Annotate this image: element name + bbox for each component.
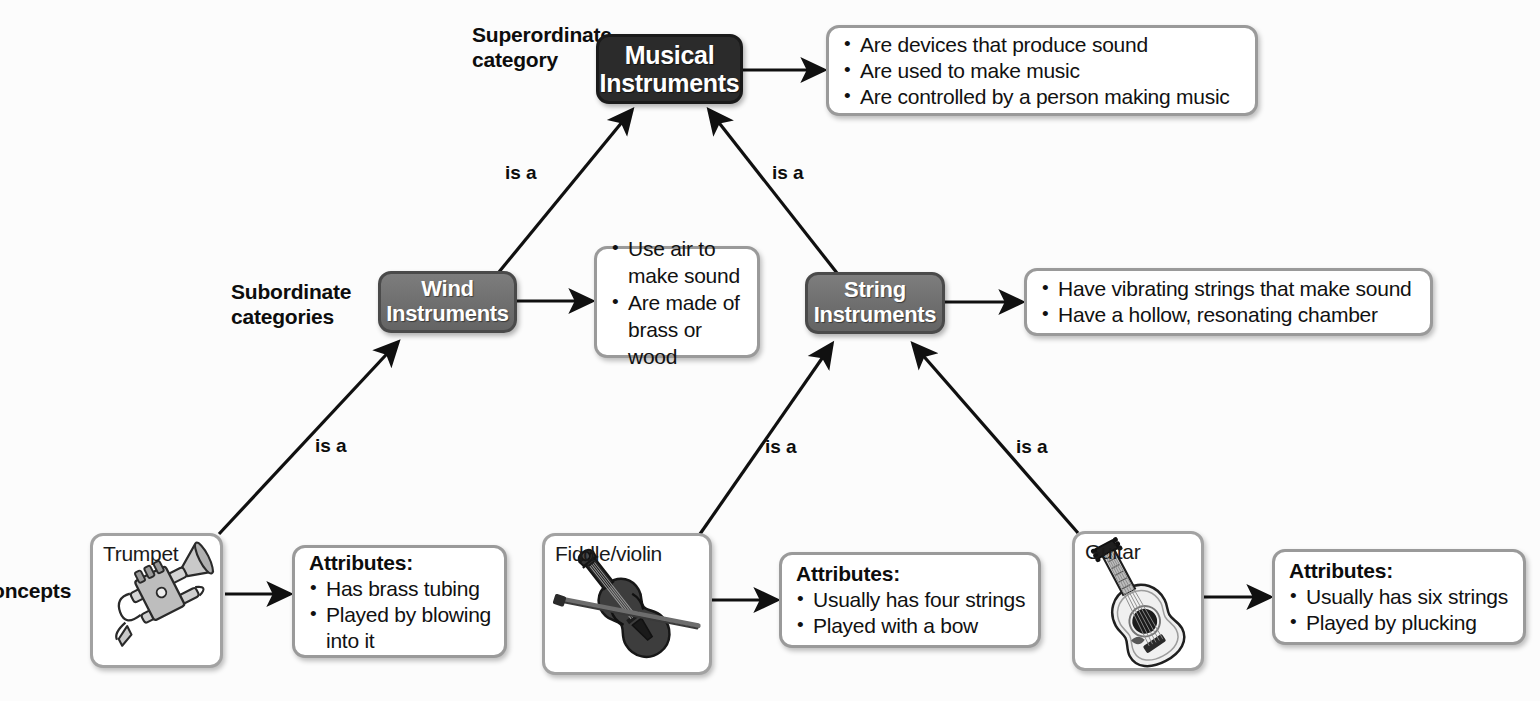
node-musical-instruments[interactable]: Musical Instruments <box>596 34 743 104</box>
factbox-guitar-list: Usually has six strings Played by plucki… <box>1289 584 1511 636</box>
concept-fiddle[interactable]: Fiddle/violin <box>542 533 712 675</box>
node-string-instruments-label: String Instruments <box>814 278 937 327</box>
factbox-trumpet-attributes: Attributes: Has brass tubing Played by b… <box>292 545 507 658</box>
factbox-item: Usually has four strings <box>796 587 1026 613</box>
factbox-item: Has brass tubing <box>309 576 492 602</box>
factbox-item: Have vibrating strings that make sound <box>1041 276 1418 302</box>
factbox-fiddle-list: Usually has four strings Played with a b… <box>796 587 1026 639</box>
edge-label-wind-to-musical: is a <box>505 162 537 184</box>
factbox-wind-instruments-list: Use air to make sound Are made of brass … <box>611 235 745 370</box>
factbox-item: Played with a bow <box>796 613 1026 639</box>
edge-label-fiddle-to-string: is a <box>765 436 797 458</box>
factbox-item: Played by plucking <box>1289 610 1511 636</box>
factbox-trumpet-list: Has brass tubing Played by blowing into … <box>309 576 492 654</box>
edge-label-trumpet-to-wind: is a <box>315 435 347 457</box>
label-superordinate-category: Superordinate category <box>472 22 602 72</box>
factbox-item: Are used to make music <box>843 58 1243 84</box>
label-subordinate-categories: Subordinate categories <box>231 279 381 329</box>
factbox-item: Are controlled by a person making music <box>843 84 1243 110</box>
factbox-fiddle-attributes: Attributes: Usually has four strings Pla… <box>779 552 1041 648</box>
edge-label-string-to-musical: is a <box>772 162 804 184</box>
factbox-item: Played by blowing into it <box>309 602 492 654</box>
edge-guitar-to-string <box>913 344 1078 533</box>
node-musical-instruments-label: Musical Instruments <box>600 41 740 97</box>
node-string-instruments[interactable]: String Instruments <box>805 272 945 334</box>
concept-fiddle-label: Fiddle/violin <box>555 541 662 566</box>
edge-trumpet-to-wind <box>219 342 398 534</box>
factbox-string-instruments: Have vibrating strings that make sound H… <box>1024 268 1433 336</box>
factbox-trumpet-title: Attributes: <box>309 550 492 576</box>
factbox-item: Are made of brass or wood <box>611 289 745 370</box>
label-concepts: oncepts <box>0 578 102 603</box>
factbox-item: Usually has six strings <box>1289 584 1511 610</box>
factbox-fiddle-title: Attributes: <box>796 561 1026 587</box>
edge-label-guitar-to-string: is a <box>1016 436 1048 458</box>
factbox-item: Use air to make sound <box>611 235 745 289</box>
concept-trumpet[interactable]: Trumpet <box>90 533 223 668</box>
factbox-musical-instruments-list: Are devices that produce sound Are used … <box>843 32 1243 110</box>
factbox-item: Have a hollow, resonating chamber <box>1041 302 1418 328</box>
factbox-string-instruments-list: Have vibrating strings that make sound H… <box>1041 276 1418 328</box>
diagram-canvas: Superordinate category Subordinate categ… <box>0 0 1540 701</box>
node-wind-instruments[interactable]: Wind Instruments <box>378 271 517 333</box>
factbox-wind-instruments: Use air to make sound Are made of brass … <box>594 246 760 358</box>
concept-trumpet-label: Trumpet <box>103 541 178 566</box>
concept-guitar-label: Guitar <box>1085 539 1140 564</box>
concept-guitar[interactable]: Guitar <box>1072 531 1204 671</box>
node-wind-instruments-label: Wind Instruments <box>386 277 509 326</box>
factbox-guitar-title: Attributes: <box>1289 558 1511 584</box>
factbox-item: Are devices that produce sound <box>843 32 1243 58</box>
factbox-musical-instruments: Are devices that produce sound Are used … <box>826 25 1258 116</box>
factbox-guitar-attributes: Attributes: Usually has six strings Play… <box>1272 549 1526 645</box>
